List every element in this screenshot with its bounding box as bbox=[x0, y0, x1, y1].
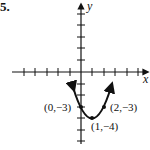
point-2-neg3 bbox=[102, 105, 106, 109]
y-axis-label: y bbox=[87, 0, 92, 14]
point-0-neg3 bbox=[79, 105, 83, 109]
label-point-0-neg3: (0,−3) bbox=[44, 101, 71, 113]
x-axis-label: x bbox=[143, 72, 148, 87]
parabola-graph bbox=[0, 0, 150, 150]
label-point-2-neg3: (2,−3) bbox=[110, 101, 137, 113]
label-vertex: (1,−4) bbox=[91, 120, 118, 132]
parabola-curve bbox=[73, 87, 111, 119]
